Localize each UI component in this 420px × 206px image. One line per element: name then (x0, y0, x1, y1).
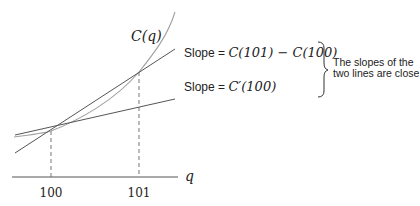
secant-slope-prefix: Slope = (184, 46, 228, 60)
tangent-slope-math: C′(100) (228, 79, 276, 94)
tangent-line (15, 99, 175, 135)
tangent-slope-label: Slope = C′(100) (184, 79, 276, 94)
secant-line (15, 49, 175, 153)
secant-slope-label: Slope = C(101) − C(100) (184, 45, 337, 60)
tangent-slope-prefix: Slope = (184, 80, 228, 94)
tick-label-100: 100 (40, 186, 63, 200)
secant-slope-math: C(101) − C(100) (228, 45, 337, 60)
curve-label: C(q) (131, 28, 162, 44)
axis-label-q: q (185, 168, 194, 184)
marginal-cost-diagram: C(q) q 100 101 Slope = C(101) − C(100) S… (0, 0, 420, 206)
note-line-2: two lines are close (333, 67, 420, 79)
tick-label-101: 101 (128, 186, 151, 200)
